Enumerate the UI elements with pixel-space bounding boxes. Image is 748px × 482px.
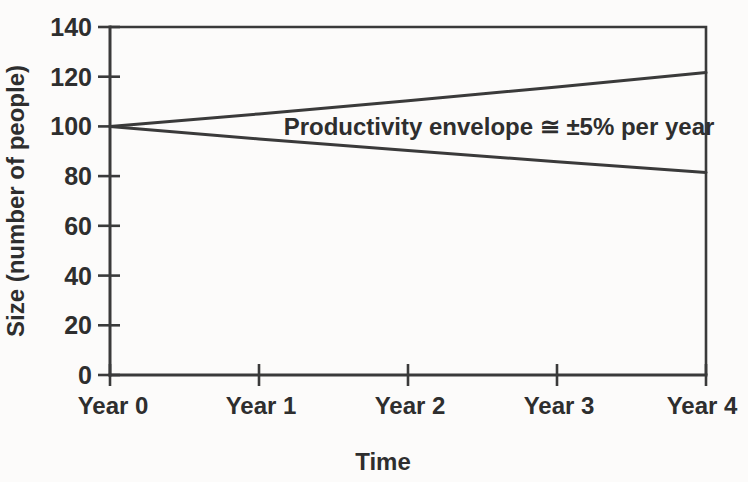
x-tick-label: Year 4 bbox=[667, 392, 738, 419]
x-tick-label: Year 2 bbox=[375, 392, 446, 419]
y-tick-label: 120 bbox=[50, 63, 92, 91]
y-tick-label: 60 bbox=[64, 212, 92, 240]
y-axis-title: Size (number of people) bbox=[2, 65, 29, 337]
y-tick-label: 0 bbox=[78, 361, 92, 389]
y-tick-label: 140 bbox=[50, 13, 92, 41]
x-tick-label: Year 1 bbox=[226, 392, 297, 419]
x-tick-label: Year 3 bbox=[524, 392, 595, 419]
y-tick-label: 20 bbox=[64, 311, 92, 339]
productivity-envelope-chart: 140 120 100 80 60 40 20 0 Year 0 Year 1 … bbox=[0, 0, 748, 482]
chart-figure: 140 120 100 80 60 40 20 0 Year 0 Year 1 … bbox=[0, 0, 748, 482]
x-axis-title: Time bbox=[355, 448, 411, 475]
productivity-envelope-annotation: Productivity envelope ≅ ±5% per year bbox=[284, 113, 715, 140]
y-tick-label: 100 bbox=[50, 112, 92, 140]
y-tick-label: 80 bbox=[64, 162, 92, 190]
y-tick-label: 40 bbox=[64, 262, 92, 290]
x-tick-label: Year 0 bbox=[78, 392, 149, 419]
